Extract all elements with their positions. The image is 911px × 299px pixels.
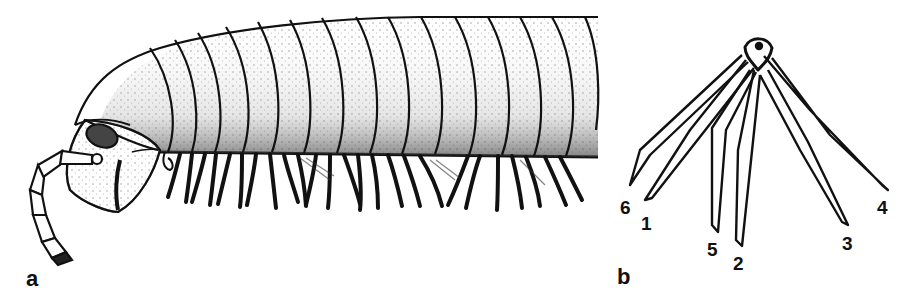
appendage-label-4: 4 — [877, 197, 888, 219]
appendage-label-5: 5 — [707, 239, 718, 261]
appendage-label-2: 2 — [733, 253, 744, 275]
figure: a b 6 1 5 2 3 4 — [0, 0, 911, 299]
appendage-label-6: 6 — [620, 197, 631, 219]
panel-label-a: a — [26, 266, 38, 292]
millipede-body — [75, 17, 598, 157]
appendage-label-3: 3 — [842, 233, 853, 255]
appendage-fan — [630, 39, 888, 246]
panel-label-b: b — [617, 264, 630, 290]
appendage-label-1: 1 — [641, 213, 652, 235]
millipede-illustration — [0, 0, 911, 299]
millipede-legs — [168, 154, 582, 210]
